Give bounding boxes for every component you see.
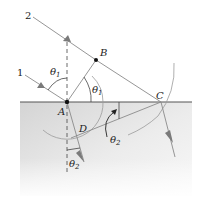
wavefront-AB xyxy=(67,60,96,102)
ray-1-label: 1 xyxy=(17,67,23,78)
angle-arc-theta1-incident xyxy=(48,78,67,90)
point-C-label: C xyxy=(156,90,164,101)
point-A-label: A xyxy=(57,106,65,117)
theta1-incident-label: θ1 xyxy=(50,66,61,79)
point-B-label: B xyxy=(99,47,107,58)
angle-arc-theta1-wavefront xyxy=(84,77,91,102)
ray-2-label: 2 xyxy=(25,10,31,21)
arrowhead-icon xyxy=(37,82,45,88)
refraction-diagram: 2 1 B A C D θ1 θ1 θ2 θ2 xyxy=(0,0,202,202)
ray-2 xyxy=(33,17,96,60)
point-B-dot xyxy=(94,58,98,62)
theta1-wavefront-label: θ1 xyxy=(92,84,103,97)
point-A-dot xyxy=(65,100,69,104)
point-D-label: D xyxy=(78,123,87,134)
ray-2-path-BC xyxy=(96,60,161,102)
